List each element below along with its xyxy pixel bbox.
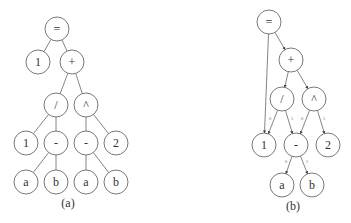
a-node-eq: = [45, 17, 69, 41]
edge-eq-one_top [44, 39, 51, 51]
node-label: b [53, 175, 59, 189]
a-node-two: 2 [104, 131, 128, 155]
a-node-plus: + [60, 50, 84, 74]
a-node-b2: b [104, 170, 128, 194]
b-node-one: 1 [252, 133, 276, 157]
a-node-one_top: 1 [26, 50, 50, 74]
node-label: ^ [83, 98, 89, 112]
arrow-pow-minus [300, 110, 309, 134]
arrow-div-one [268, 110, 277, 134]
node-label: 1 [261, 138, 267, 152]
node-label: 2 [325, 138, 331, 152]
edge-label: 1 [291, 116, 294, 121]
node-label: b [113, 175, 119, 189]
b-node-plus: + [279, 48, 303, 72]
b-node-div: / [270, 87, 294, 111]
caption-b: (b) [286, 199, 300, 213]
a-node-pow: ^ [74, 93, 98, 117]
edge-label: 0 [285, 159, 288, 164]
b-node-minus: - [284, 133, 308, 157]
node-label: + [69, 55, 76, 69]
dag-b-nodes: =+/^1-2ab [252, 10, 340, 197]
expression-tree-a: =1+/^1--2abab (a) [14, 17, 128, 210]
a-node-b1: b [44, 170, 68, 194]
edge-label: 1 [306, 159, 309, 164]
arrow-pow-two [317, 110, 324, 133]
node-label: a [23, 175, 29, 189]
edge-eq-plus [62, 40, 67, 51]
node-label: - [294, 138, 298, 152]
edge-minus1-a1 [33, 153, 48, 173]
node-label: 1 [23, 136, 29, 150]
a-node-minus2: - [74, 131, 98, 155]
a-node-div: / [44, 93, 68, 117]
arrow-eq-plus [275, 32, 285, 49]
edge-plus-pow [76, 73, 83, 93]
node-label: b [309, 178, 315, 192]
node-label: + [288, 53, 295, 67]
arrow-plus-pow [297, 70, 308, 88]
edge-plus-div [60, 73, 68, 94]
arrow-div-minus [285, 110, 292, 133]
node-label: - [84, 136, 88, 150]
a-node-a2: a [74, 170, 98, 194]
b-node-two: 2 [316, 133, 340, 157]
b-node-b: b [300, 173, 324, 197]
node-label: = [54, 22, 61, 36]
edge-pow-two [93, 114, 108, 133]
node-label: 1 [35, 55, 41, 69]
edge-label: 0 [301, 116, 304, 121]
edge-div-one [33, 114, 48, 133]
node-label: a [83, 175, 89, 189]
a-node-one: 1 [14, 131, 38, 155]
node-label: - [54, 136, 58, 150]
node-label: 2 [113, 136, 119, 150]
a-node-a1: a [14, 170, 38, 194]
expression-dag-b: 010101 =+/^1-2ab (b) [252, 10, 340, 213]
node-label: a [279, 178, 285, 192]
a-node-minus1: - [44, 131, 68, 155]
arrow-plus-div [285, 72, 289, 88]
edge-label: 1 [323, 116, 326, 121]
b-node-pow: ^ [302, 87, 326, 111]
node-label: ^ [311, 92, 317, 106]
expression-diagram: =1+/^1--2abab (a) 010101 =+/^1-2ab (b) [0, 0, 351, 223]
caption-a: (a) [61, 196, 74, 210]
edge-label: 0 [269, 116, 272, 121]
b-node-a: a [270, 173, 294, 197]
edge-minus2-b2 [93, 153, 108, 173]
b-node-eq: = [257, 10, 281, 34]
tree-a-nodes: =1+/^1--2abab [14, 17, 128, 194]
node-label: = [266, 15, 273, 29]
